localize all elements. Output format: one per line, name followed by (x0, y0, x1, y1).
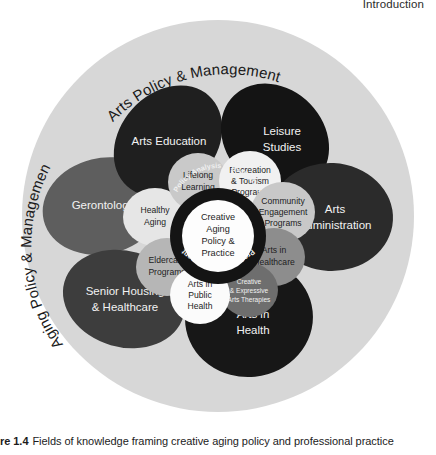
petal-leisure-studies-line1: Leisure (263, 125, 301, 137)
venn-flower-diagram: Arts Policy & Management Aging Policy & … (0, 14, 436, 420)
inner-circle-community-engagement-programs-line2: Engagement (259, 207, 308, 217)
core-center-line1: Creative (201, 212, 235, 222)
outer-label-health-policy-management: Health Policy & Management (136, 415, 333, 420)
inner-circle-healthy-aging-line1: Healthy (140, 205, 170, 215)
inner-circle-creative-expressive-arts-therapies-line2: & Expressive (230, 287, 269, 295)
figure-caption: re 1.4Fields of knowledge framing creati… (0, 435, 436, 447)
core-center-line2: Aging (206, 224, 230, 234)
inner-circle-healthy-aging-line2: Aging (144, 217, 166, 227)
figure-caption-text: Fields of knowledge framing creative agi… (32, 435, 393, 447)
inner-circle-creative-expressive-arts-therapies-line1: Creative (237, 278, 262, 285)
inner-circle-creative-expressive-arts-therapies-line3: Arts Therapies (228, 296, 271, 304)
core-center-line4: Practice (201, 248, 234, 258)
inner-circle-community-engagement-programs-line1: Community (261, 196, 305, 206)
core-center-line3: Policy & (201, 236, 234, 246)
inner-circle-arts-in-public-health-line2: Public (188, 290, 212, 300)
running-head: Introduction (363, 0, 424, 10)
petal-arts-in-health-line2: Health (236, 324, 269, 336)
petal-leisure-studies-line2: Studies (263, 141, 302, 153)
petal-senior-housing-healthcare-line2: & Healthcare (92, 301, 158, 313)
inner-circle-community-engagement-programs-line3: Programs (264, 218, 301, 228)
petal-arts-administration-line1: Arts (325, 203, 346, 215)
inner-circle-arts-in-public-health-line3: Health (188, 301, 213, 311)
petal-arts-education-label: Arts Education (132, 135, 207, 147)
figure-diagram: Arts Policy & Management Aging Policy & … (0, 14, 436, 420)
inner-circle-arts-in-healthcare-line1: Arts in (262, 245, 287, 255)
figure-caption-number: re 1.4 (0, 435, 28, 447)
outer-label-health-policy-management-text: Health Policy & Management (136, 415, 333, 420)
